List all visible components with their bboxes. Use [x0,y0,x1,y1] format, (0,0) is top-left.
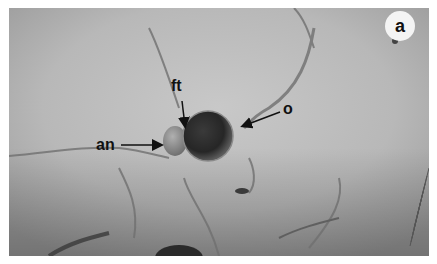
label-o: o [283,101,293,117]
oogonium [183,111,233,161]
micrograph-photo [9,8,429,256]
debris [235,188,249,194]
label-an: an [96,137,115,153]
micrograph-scene [9,8,429,256]
label-ft: ft [171,78,182,94]
panel-label: a [395,16,405,37]
panel-label-badge: a [385,11,415,41]
